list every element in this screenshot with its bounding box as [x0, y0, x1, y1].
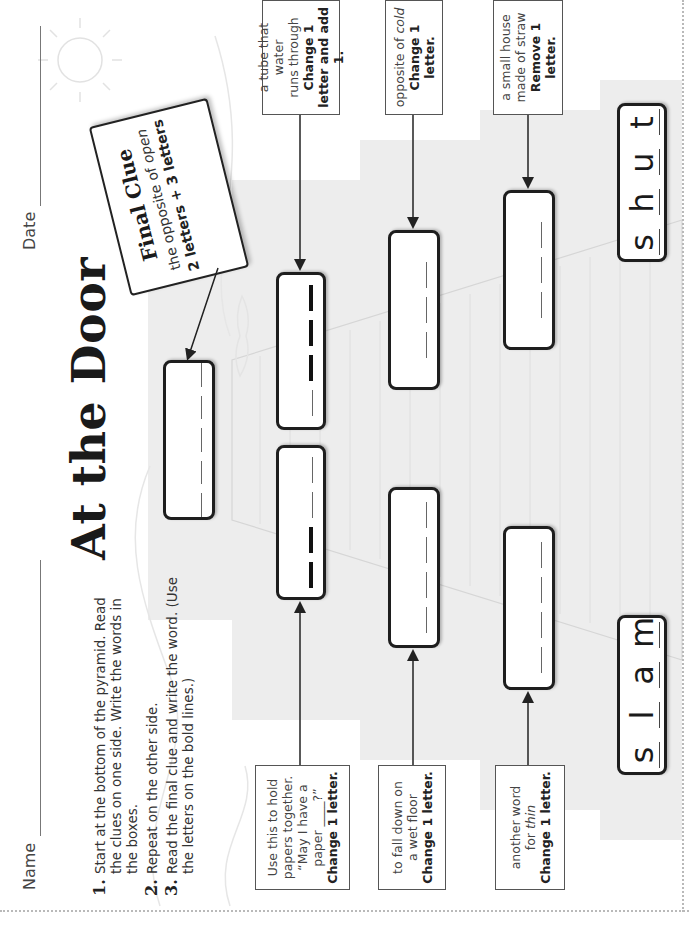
instructions-list: 1. Start at the bottom of the pyramid. R…: [92, 576, 200, 896]
answer-box-left-1[interactable]: [503, 526, 555, 690]
start-word-right: s h u t: [617, 103, 667, 262]
letter-slot: [426, 332, 427, 358]
worksheet-page: Name Date At the Door 1. Start at the bo…: [0, 0, 689, 936]
letter-slot: [201, 461, 202, 485]
letter-slot: [426, 297, 427, 323]
letter-slot: [541, 222, 542, 248]
letter-slot: [426, 262, 427, 288]
letter-slot-bold: [309, 527, 313, 553]
answer-box-left-3[interactable]: [276, 445, 326, 600]
page-title: At the Door: [62, 160, 116, 560]
clue-box-right-3: a tube that water runs through Change 1 …: [262, 0, 340, 115]
start-word-left: s l a m: [617, 615, 667, 775]
instruction-item: 2. Repeat on the other side.: [144, 576, 160, 896]
letter-slot: [201, 493, 202, 517]
clue-box-left-2: to fall down on a wet floor Change 1 let…: [378, 765, 446, 890]
letter-slot: [426, 537, 427, 563]
letter-slot: [541, 578, 542, 604]
page-border-left: [0, 910, 689, 912]
letter-slot: [201, 363, 202, 387]
answer-box-right-1[interactable]: [503, 190, 555, 350]
letter-slot: [541, 257, 542, 283]
letter-slot-bold: [309, 356, 313, 382]
clue-box-left-1: another word for thin Change 1 letter.: [495, 765, 565, 890]
answer-box-right-2[interactable]: [388, 230, 440, 390]
letter-slot-bold: [309, 321, 313, 347]
date-field[interactable]: [40, 26, 41, 206]
sun-icon: [38, 18, 122, 102]
name-field[interactable]: [40, 560, 41, 836]
letter-slot: [312, 492, 313, 518]
letter-slot: [426, 607, 427, 633]
clue-box-left-3: Use this to hold papers together. “May I…: [255, 765, 350, 890]
page-border-bottom: [682, 0, 684, 912]
name-label: Name: [20, 843, 39, 890]
letter-slot: [426, 572, 427, 598]
date-label: Date: [20, 212, 39, 250]
letter-slot-bold: [309, 562, 313, 588]
clue-box-right-1: a small house made of straw Remove 1 let…: [493, 0, 563, 115]
letter-slot: [312, 391, 313, 417]
answer-box-left-2[interactable]: [388, 487, 440, 648]
letter-slot: [541, 292, 542, 318]
letter-slot: [541, 613, 542, 639]
letter-slot: [541, 648, 542, 674]
letter-slot-bold: [309, 286, 313, 312]
clue-box-right-2: opposite of cold Change 1 letter.: [385, 0, 443, 115]
letter-slot: [426, 502, 427, 528]
letter-slot: [541, 543, 542, 569]
instruction-item: 3. Read the final clue and write the wor…: [164, 576, 196, 896]
letter-slot: [201, 396, 202, 420]
answer-box-right-3[interactable]: [276, 272, 326, 430]
instruction-item: 1. Start at the bottom of the pyramid. R…: [92, 576, 140, 896]
letter-slot: [312, 457, 313, 483]
letter-slot: [201, 428, 202, 452]
final-answer-box[interactable]: [163, 360, 215, 520]
